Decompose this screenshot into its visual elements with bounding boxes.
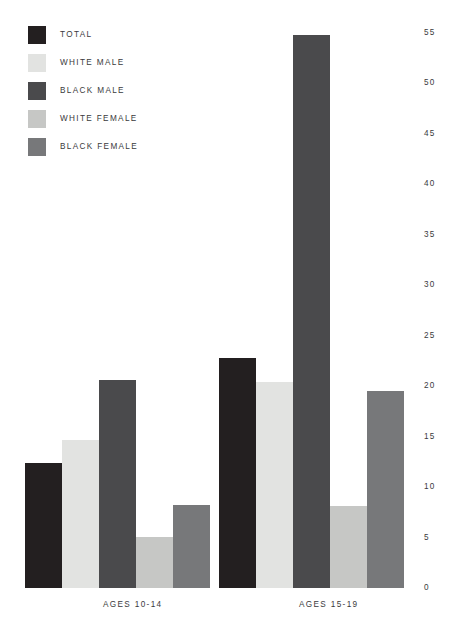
bar-chart: TOTAL WHITE MALE BLACK MALE WHITE FEMALE… xyxy=(0,0,463,631)
y-tick-55: 55 xyxy=(424,28,435,38)
y-tick-5: 5 xyxy=(424,533,430,543)
bar-group-2-white-female xyxy=(330,506,367,588)
bar-group-2-total xyxy=(219,358,256,588)
x-axis-label-group-2: AGES 15-19 xyxy=(299,600,358,609)
y-tick-10: 10 xyxy=(424,482,435,492)
y-tick-15: 15 xyxy=(424,432,435,442)
y-tick-50: 50 xyxy=(424,78,435,88)
y-tick-35: 35 xyxy=(424,230,435,240)
y-tick-20: 20 xyxy=(424,381,435,391)
bar-group-2-black-male xyxy=(293,35,330,588)
plot-area xyxy=(0,0,463,631)
bar-group-1-black-male xyxy=(99,380,136,588)
bar-group-1-white-male xyxy=(62,440,99,588)
bar-group-2-white-male xyxy=(256,382,293,588)
y-axis: 5550454035302520151050 xyxy=(424,0,463,631)
bar-group-1-white-female xyxy=(136,537,173,588)
y-tick-45: 45 xyxy=(424,129,435,139)
bar-group-2-black-female xyxy=(367,391,404,588)
x-axis-label-group-1: AGES 10-14 xyxy=(103,600,162,609)
y-tick-25: 25 xyxy=(424,331,435,341)
bar-group-1-black-female xyxy=(173,505,210,588)
y-tick-0: 0 xyxy=(424,583,430,593)
y-tick-40: 40 xyxy=(424,179,435,189)
y-tick-30: 30 xyxy=(424,280,435,290)
bar-group-1-total xyxy=(25,463,62,588)
